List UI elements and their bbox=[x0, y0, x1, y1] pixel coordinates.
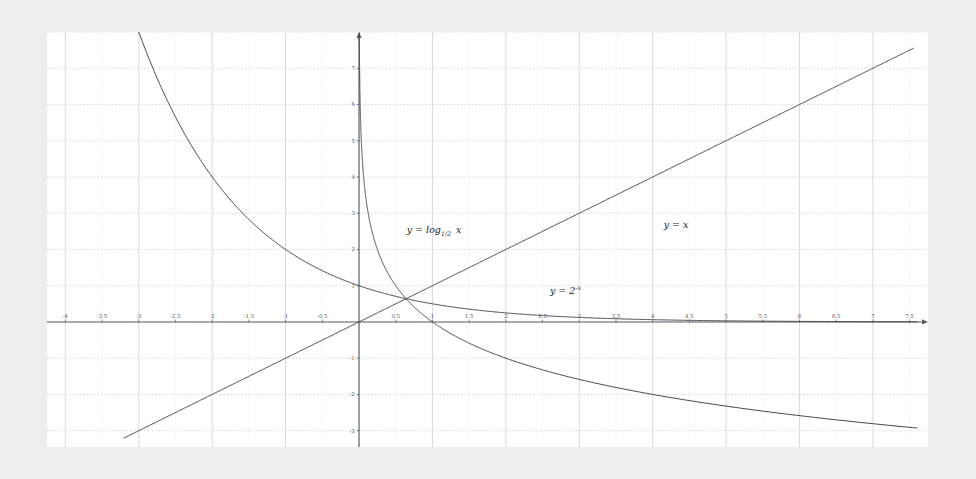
curve-annotation-label: y = 2-x bbox=[549, 284, 582, 295]
chart-svg: -4-3.5-3-2.5-2-1.5-1-0.50.511.522.533.54… bbox=[47, 32, 928, 447]
annotation-subscript: 1/2 bbox=[441, 230, 451, 237]
x-tick-label: -1 bbox=[283, 313, 288, 319]
x-tick-label: 6.5 bbox=[832, 313, 841, 319]
y-tick-label: 4 bbox=[351, 174, 355, 180]
x-tick-label: -3.5 bbox=[97, 313, 108, 319]
plot-area: -4-3.5-3-2.5-2-1.5-1-0.50.511.522.533.54… bbox=[47, 32, 928, 447]
x-tick-label: -0.5 bbox=[317, 313, 328, 319]
x-tick-label: 2 bbox=[504, 313, 507, 319]
curve-annotation-label: y = x bbox=[663, 219, 689, 230]
grid-lines bbox=[47, 32, 928, 447]
annotation-lhs: y = x bbox=[663, 219, 689, 230]
y-tick-label: -3 bbox=[350, 428, 356, 434]
y-tick-label: -2 bbox=[350, 391, 355, 397]
x-tick-label: 0.5 bbox=[391, 313, 400, 319]
x-tick-label: 5 bbox=[724, 313, 728, 319]
axes bbox=[47, 32, 928, 447]
annotation-lhs: y = log bbox=[406, 224, 441, 235]
x-tick-label: 5.5 bbox=[759, 313, 768, 319]
x-tick-label: -3 bbox=[136, 313, 142, 319]
x-tick-label: 7 bbox=[871, 313, 875, 319]
x-tick-label: -2.5 bbox=[170, 313, 181, 319]
x-tick-label: 6 bbox=[798, 313, 802, 319]
y-tick-label: 6 bbox=[351, 101, 355, 107]
annotation-superscript: -x bbox=[575, 284, 581, 292]
x-tick-label: -1.5 bbox=[244, 313, 255, 319]
y-tick-label: 2 bbox=[351, 246, 354, 252]
annotation-variable: x bbox=[453, 224, 462, 235]
curves bbox=[124, 32, 917, 438]
y-tick-label: -1 bbox=[350, 355, 355, 361]
x-tick-label: -4 bbox=[63, 313, 69, 319]
x-axis-arrow bbox=[922, 319, 928, 324]
x-tick-label: 7.5 bbox=[905, 313, 914, 319]
x-tick-label: 1 bbox=[431, 313, 434, 319]
curve-path bbox=[124, 48, 913, 438]
y-tick-label: 7 bbox=[351, 65, 355, 71]
figure-canvas: -4-3.5-3-2.5-2-1.5-1-0.50.511.522.533.54… bbox=[0, 0, 976, 479]
x-tick-label: 4 bbox=[651, 313, 655, 319]
annotation-lhs: y = 2 bbox=[549, 285, 575, 296]
x-tick-label: 1.5 bbox=[465, 313, 474, 319]
curve-annotation-label: y = log1/2 x bbox=[406, 224, 462, 236]
y-tick-label: 5 bbox=[351, 138, 355, 144]
y-tick-label: 3 bbox=[351, 210, 355, 216]
x-tick-label: -2 bbox=[210, 313, 215, 319]
x-tick-label: 3.5 bbox=[612, 313, 621, 319]
x-tick-label: 4.5 bbox=[685, 313, 694, 319]
